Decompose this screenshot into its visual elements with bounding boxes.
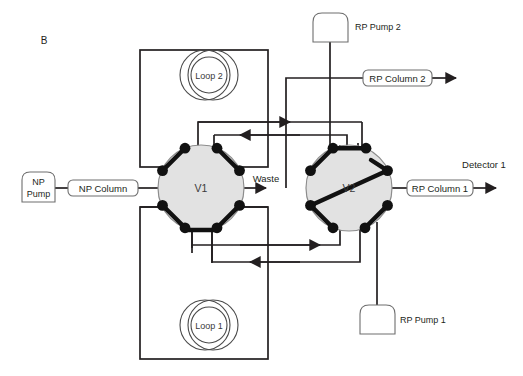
valve-v1-port-2: [212, 143, 223, 154]
rp-pump-2-shape: [313, 13, 348, 42]
valve-v2-port-5: [360, 222, 371, 233]
valve-v1-port-6: [180, 222, 191, 233]
valve-v2-port-1: [328, 143, 339, 154]
valve-v1-port-7: [157, 200, 168, 211]
rp-pump-1-label: RP Pump 1: [400, 315, 446, 325]
rp-column-2-label: RP Column 2: [369, 73, 425, 84]
rp-pump-1-shape: [360, 305, 395, 334]
valve-v1-port-3: [234, 165, 245, 176]
valve-v1-port-1: [180, 143, 191, 154]
valve-v2-port-6: [328, 222, 339, 233]
loop2-label: Loop 2: [195, 71, 223, 81]
np-pump-label-line1: NP: [32, 177, 45, 187]
np-pump-node[interactable]: NP Pump: [22, 172, 55, 202]
valve-v2-label: V2: [343, 182, 356, 194]
detector-1-label: Detector 1: [462, 159, 506, 170]
loop1-label: Loop 1: [195, 321, 223, 331]
rp-pump-2-label: RP Pump 2: [355, 22, 401, 32]
rp-column-2-node[interactable]: RP Column 2: [363, 70, 432, 86]
two-dimensional-lc-valve-diagram: V1: [0, 0, 523, 376]
np-pump-label-line2: Pump: [27, 189, 51, 199]
waste-label: Waste: [253, 173, 280, 184]
valve-v1-port-8: [157, 165, 168, 176]
diagram-canvas: V1: [0, 0, 523, 376]
valve-v1-port-5: [212, 222, 223, 233]
valve-v1-port-4: [234, 200, 245, 211]
panel-letter-label: B: [41, 35, 48, 46]
valve-v1[interactable]: V1: [157, 143, 245, 233]
rp-pump-2-node[interactable]: [313, 13, 348, 42]
rp-pump-1-node[interactable]: [360, 305, 395, 334]
np-column-label: NP Column: [79, 183, 127, 194]
np-column-node[interactable]: NP Column: [68, 180, 138, 196]
valve-v2-port-8: [305, 165, 316, 176]
valve-v1-label: V1: [195, 182, 208, 194]
valve-v2-port-3: [382, 165, 393, 176]
valve-v2-port-2: [361, 143, 372, 154]
rp-column-1-node[interactable]: RP Column 1: [407, 180, 473, 196]
valve-v2[interactable]: V2: [305, 143, 393, 233]
rp-column-1-label: RP Column 1: [412, 183, 468, 194]
valve-v2-port-7: [305, 200, 316, 211]
valve-v2-port-4: [382, 200, 393, 211]
